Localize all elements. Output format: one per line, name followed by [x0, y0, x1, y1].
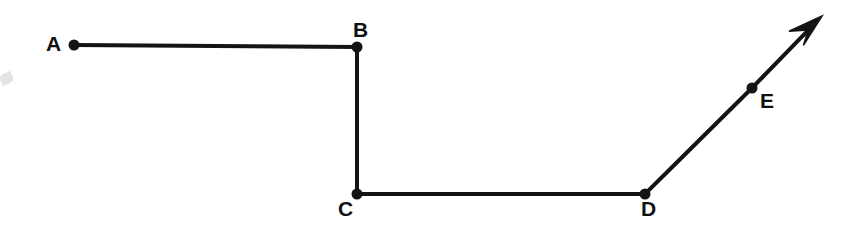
polyline-diagram-svg	[0, 0, 860, 229]
polyline-path	[74, 31, 808, 194]
vertex-label-e: E	[760, 90, 774, 111]
vertex-label-d: D	[641, 198, 656, 219]
vertex-label-b: B	[353, 19, 368, 40]
vertex-label-a: A	[46, 33, 61, 54]
vertex-dot-a	[69, 40, 80, 51]
vertex-dot-b	[352, 42, 363, 53]
figure-canvas: A B C D E	[0, 0, 860, 229]
vertex-dot-e	[747, 83, 758, 94]
arrow-head-icon	[789, 16, 822, 45]
vertex-label-c: C	[338, 198, 353, 219]
